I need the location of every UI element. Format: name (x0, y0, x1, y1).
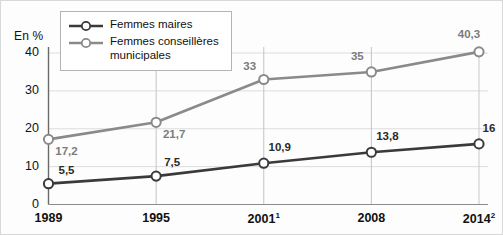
data-point-marker (367, 148, 376, 157)
data-value-label: 17,2 (55, 145, 77, 157)
data-value-label: 33 (243, 60, 256, 72)
legend-item-maires[interactable]: Femmes maires (68, 18, 224, 33)
x-axis-tick-label: 20011 (248, 211, 280, 226)
legend: Femmes maires Femmes conseillères munici… (60, 11, 232, 71)
legend-label-maires: Femmes maires (110, 18, 192, 32)
data-point-marker (44, 135, 53, 144)
x-axis-tick-label: 1995 (142, 211, 170, 225)
data-value-label: 13,8 (376, 130, 398, 142)
data-value-label: 5,5 (59, 164, 75, 176)
data-point-marker (474, 139, 483, 148)
data-point-marker (474, 47, 483, 56)
data-value-label: 35 (351, 50, 364, 62)
y-axis-tick-label: 10 (5, 159, 39, 173)
data-value-label: 16 (483, 122, 496, 134)
data-value-label: 10,9 (269, 141, 291, 153)
y-axis-tick-label: 40 (5, 45, 39, 59)
data-point-marker (259, 75, 268, 84)
y-axis-tick-label: 30 (5, 83, 39, 97)
data-value-label: 40,3 (458, 28, 480, 40)
data-point-marker (259, 159, 268, 168)
legend-label-conseilleres: Femmes conseillères municipales (110, 35, 224, 62)
x-axis-tick-label: 2008 (357, 211, 385, 225)
legend-line-marker-icon (68, 36, 104, 50)
y-axis-tick-label: 0 (5, 197, 39, 211)
data-point-marker (152, 171, 161, 180)
data-value-label: 7,5 (164, 156, 180, 168)
y-axis-tick-label: 20 (5, 121, 39, 135)
data-point-marker (152, 118, 161, 127)
data-point-marker (44, 179, 53, 188)
data-value-label: 21,7 (163, 128, 185, 140)
x-axis-tick-label: 1989 (35, 211, 63, 225)
legend-item-conseilleres[interactable]: Femmes conseillères municipales (68, 35, 224, 62)
legend-line-marker-icon (68, 19, 104, 33)
x-axis-tick-label: 20142 (463, 211, 495, 226)
chart-container: En % 010203040 1989199520011200820142 5,… (0, 0, 503, 235)
data-point-marker (367, 67, 376, 76)
